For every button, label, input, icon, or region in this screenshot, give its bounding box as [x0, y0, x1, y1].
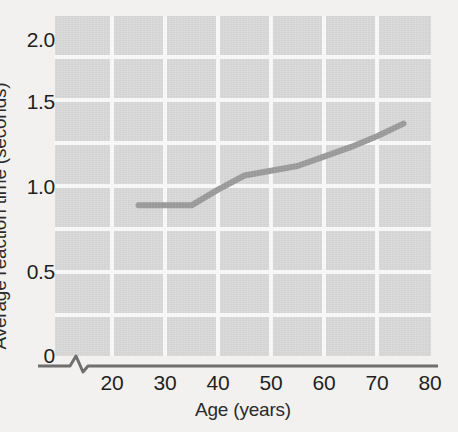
y-tick-0-5: 0.5 — [3, 260, 55, 284]
x-tick-30: 30 — [135, 371, 195, 395]
data-line-average-reaction-time — [139, 124, 404, 206]
y-tick-1-5: 1.5 — [3, 90, 55, 114]
x-tick-70: 70 — [347, 371, 407, 395]
x-tick-60: 60 — [294, 371, 354, 395]
x-tick-40: 40 — [188, 371, 248, 395]
reaction-time-line-chart: Average reaction time (seconds) 0 0.5 1.… — [0, 0, 458, 432]
axis-break-zigzag-icon — [38, 356, 438, 372]
x-tick-80: 80 — [400, 371, 458, 395]
y-tick-2-0: 2.0 — [3, 28, 55, 52]
y-tick-1-0: 1.0 — [3, 175, 55, 199]
x-axis-title: Age (years) — [55, 399, 431, 421]
plot-area — [55, 16, 431, 356]
data-series-layer — [55, 16, 431, 356]
x-axis-tick-labels: 20 30 40 50 60 70 80 — [0, 371, 458, 401]
x-tick-50: 50 — [241, 371, 301, 395]
x-tick-20: 20 — [82, 371, 142, 395]
